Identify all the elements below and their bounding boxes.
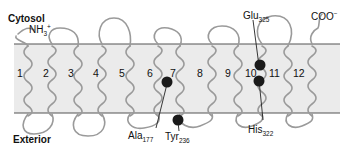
loop-c-6-7	[154, 28, 181, 46]
n-terminus-label: NH3+	[29, 25, 51, 35]
loop-e-3-4	[73, 114, 104, 136]
helix-number-2: 2	[43, 68, 49, 79]
helix-number-12: 12	[293, 68, 305, 79]
residue-label-glu325: Glu325	[243, 11, 269, 21]
loop-c-4-5	[99, 18, 130, 46]
helix-number-1: 1	[17, 68, 23, 79]
loop-e-1-2	[23, 114, 53, 134]
c-terminus-label: COO−	[311, 12, 338, 22]
helix-number-4: 4	[93, 68, 99, 79]
exterior-label: Exterior	[13, 135, 51, 145]
loop-c-8-9	[208, 26, 239, 46]
helix-number-10: 10	[245, 68, 257, 79]
residue-label-his322: His322	[248, 125, 273, 135]
helix-number-8: 8	[197, 68, 203, 79]
loop-e-5-6	[128, 114, 159, 128]
residue-label-ala177: Ala177	[128, 131, 153, 141]
helix-number-6: 6	[147, 68, 153, 79]
cytosol-label: Cytosol	[8, 14, 45, 24]
helix-number-11: 11	[269, 68, 280, 79]
residue-label-tyr236: Tyr236	[165, 132, 190, 142]
loop-e-11-12	[286, 114, 313, 127]
residue-dot-tyr236	[173, 115, 184, 126]
helix-number-9: 9	[225, 68, 231, 79]
helix-number-5: 5	[119, 68, 125, 79]
loop-e-7-8	[179, 114, 212, 127]
helix-number-7: 7	[170, 68, 176, 79]
loop-c-2-3	[49, 28, 78, 46]
helix-number-3: 3	[68, 68, 74, 79]
